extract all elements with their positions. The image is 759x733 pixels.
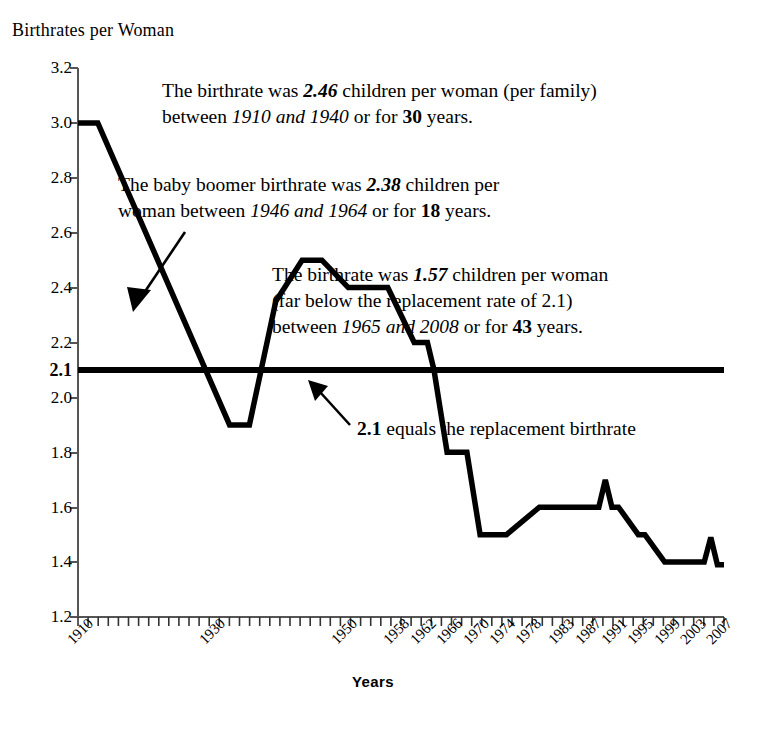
annotation-birthrate-1965-2008: The birthrate was 1.57 children per woma… <box>272 262 608 340</box>
annotation-line: between 1910 and 1940 or for 30 years. <box>162 104 597 130</box>
birthrate-chart: Birthrates per Woman <box>0 0 759 733</box>
y-tick-label-replacement: 2.1 <box>28 361 72 379</box>
annot3-l1-pre: The birthrate was <box>272 264 413 285</box>
annot2-l2-mid: or for <box>367 200 421 221</box>
annot2-l2-post: years. <box>440 200 491 221</box>
annotation-line: between 1965 and 2008 or for 43 years. <box>272 314 608 340</box>
y-tick-label: 1.2 <box>28 608 72 625</box>
x-axis-title: Years <box>352 673 394 690</box>
replacement-text: equals the replacement birthrate <box>381 418 635 439</box>
annot2-years: 18 <box>421 200 441 221</box>
annot2-l2-pre: woman between <box>118 200 250 221</box>
annot3-l3-post: years. <box>532 316 583 337</box>
annot3-l3-mid: or for <box>459 316 513 337</box>
y-tick-label: 2.6 <box>28 224 72 241</box>
y-tick-label: 1.6 <box>28 499 72 516</box>
annot1-l2-post: years. <box>422 106 473 127</box>
y-tick-label: 3.2 <box>28 59 72 76</box>
annot2-range: 1946 and 1964 <box>250 200 367 221</box>
replacement-rate-arrow <box>308 380 350 425</box>
annot1-years: 30 <box>402 106 422 127</box>
replacement-value: 2.1 <box>357 418 381 439</box>
annot1-l2-pre: between <box>162 106 232 127</box>
annot1-value: 2.46 <box>303 80 337 101</box>
replacement-rate-label: 2.1 equals the replacement birthrate <box>357 418 636 440</box>
annot2-l1-pre: The baby boomer birthrate was <box>118 174 367 195</box>
annot1-l1-pre: The birthrate was <box>162 80 303 101</box>
annotation-line: The baby boomer birthrate was 2.38 child… <box>118 172 499 198</box>
annotation-baby-boomer: The baby boomer birthrate was 2.38 child… <box>118 172 499 224</box>
annotation-birthrate-1910-1940: The birthrate was 2.46 children per woma… <box>162 78 597 130</box>
annot1-l2-mid: or for <box>349 106 403 127</box>
annot1-l1-post: children per woman (per family) <box>337 80 596 101</box>
annot3-l1-post: children per woman <box>447 264 608 285</box>
annotation-line: (far below the replacement rate of 2.1) <box>272 288 608 314</box>
y-tick-label: 2.4 <box>28 279 72 296</box>
y-axis-labels: 3.2 3.0 2.8 2.6 2.4 2.2 2.1 2.0 1.8 1.6 … <box>22 0 72 733</box>
annotation-line: The birthrate was 2.46 children per woma… <box>162 78 597 104</box>
y-tick-label: 1.4 <box>28 553 72 570</box>
y-tick-label: 2.2 <box>28 334 72 351</box>
annotation-line: The birthrate was 1.57 children per woma… <box>272 262 608 288</box>
annot1-range: 1910 and 1940 <box>232 106 349 127</box>
annot3-l3-pre: between <box>272 316 342 337</box>
annot3-range: 1965 and 2008 <box>342 316 459 337</box>
annot2-l1-post: children per <box>401 174 500 195</box>
y-tick-label: 1.8 <box>28 444 72 461</box>
annot3-years: 43 <box>512 316 532 337</box>
annot2-value: 2.38 <box>367 174 401 195</box>
y-tick-label: 3.0 <box>28 114 72 131</box>
y-tick-label: 2.8 <box>28 169 72 186</box>
y-tick-label: 2.0 <box>28 389 72 406</box>
annot3-value: 1.57 <box>413 264 447 285</box>
annotation-line: woman between 1946 and 1964 or for 18 ye… <box>118 198 499 224</box>
